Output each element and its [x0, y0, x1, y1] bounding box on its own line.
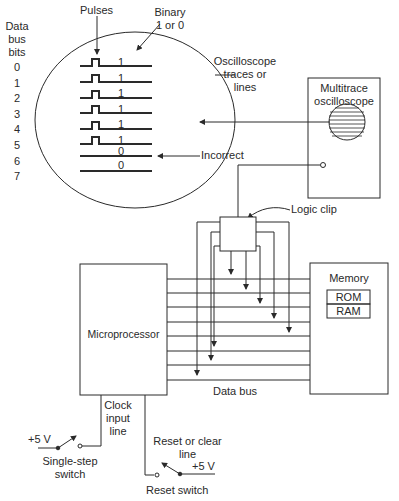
trace-value-7: 0 — [117, 159, 125, 172]
binary-label: Binary1 or 0 — [150, 6, 190, 32]
data-bus-label: Data bus — [205, 385, 265, 398]
oscilloscope-traces-label: Oscilloscopetraces orlines — [210, 55, 280, 94]
reset-line-label: Reset or clearline — [150, 435, 225, 461]
trace-value-6: 0 — [117, 145, 125, 158]
scope-screen-circle — [35, 32, 235, 208]
data-bus-bits-label: Databusbits — [2, 20, 32, 59]
memory-label: Memory — [310, 272, 388, 285]
pulses-label: Pulses — [80, 4, 113, 17]
diagram-canvas — [0, 0, 399, 501]
single-step-switch-label: Single-stepswitch — [40, 455, 100, 481]
trace-values: 111111 — [117, 55, 125, 149]
clock-input-line-label: Clockinputline — [103, 399, 133, 438]
logic-clip-box — [220, 217, 256, 251]
plus-5v-label-b: +5 V — [192, 460, 215, 473]
bit-numbers: 01234567 — [10, 60, 24, 185]
microprocessor-label: Microprocessor — [80, 328, 167, 341]
logic-clip-label: Logic clip — [291, 203, 337, 216]
reset-switch-label: Reset switch — [146, 484, 208, 497]
scope-traces — [80, 59, 152, 171]
ram-label: RAM — [327, 305, 370, 318]
multitrace-label: Multitraceoscilloscope — [310, 82, 378, 108]
incorrect-label: Incorrect — [201, 149, 244, 162]
plus-5v-label-a: +5 V — [28, 433, 51, 446]
rom-label: ROM — [327, 291, 370, 304]
